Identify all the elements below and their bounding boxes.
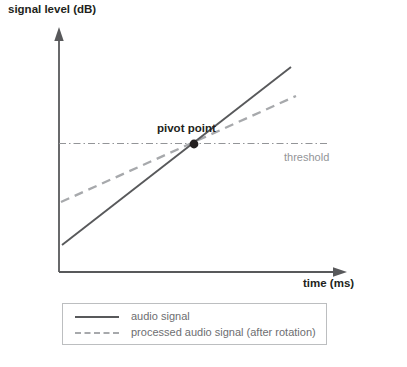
legend-label-processed-signal: processed audio signal (after rotation) bbox=[131, 326, 316, 338]
legend-label-audio-signal: audio signal bbox=[131, 310, 190, 322]
legend-swatch-dashed-line bbox=[75, 332, 119, 334]
pivot-point-marker bbox=[190, 140, 199, 149]
legend-item-processed-signal: processed audio signal (after rotation) bbox=[63, 326, 326, 340]
y-axis-label: signal level (dB) bbox=[8, 4, 96, 16]
processed-signal-line bbox=[61, 96, 296, 202]
y-axis bbox=[54, 27, 63, 272]
threshold-label: threshold bbox=[284, 152, 329, 163]
x-axis-label: time (ms) bbox=[303, 278, 354, 290]
audio-signal-line bbox=[62, 67, 291, 245]
legend-item-audio-signal: audio signal bbox=[63, 310, 326, 324]
pivot-point-label: pivot point bbox=[157, 123, 216, 135]
chart-legend: audio signal processed audio signal (aft… bbox=[62, 303, 327, 345]
x-axis bbox=[59, 267, 347, 276]
legend-swatch-solid-line bbox=[75, 316, 119, 318]
